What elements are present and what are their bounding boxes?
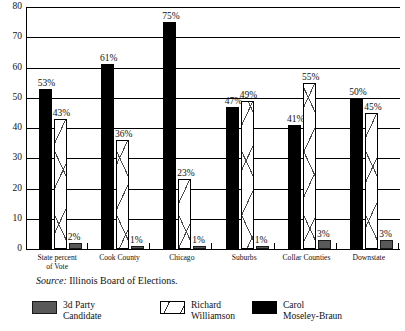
legend-swatch-richard (160, 301, 185, 314)
legend-swatch-third (32, 301, 57, 314)
x-tick-3 (274, 243, 275, 249)
legend-label-line: Williamson (191, 311, 235, 322)
bar-third-party-4 (318, 240, 331, 249)
bar-richard-5 (365, 113, 378, 249)
legend-label-carol: CarolMoseley-Braun (283, 300, 342, 321)
hatch-pattern (304, 84, 315, 248)
gridline-50 (26, 98, 400, 99)
hatch-pattern (366, 114, 377, 248)
bar-value-label-third-party-4: 3% (317, 229, 330, 239)
gridline-40 (26, 128, 400, 129)
legend-label-third: 3d PartyCandidate (63, 300, 102, 321)
bar-value-label-carol-1: 61% (100, 53, 117, 63)
bar-value-label-richard-5: 45% (364, 102, 381, 112)
hatch-pattern (242, 102, 253, 248)
bar-carol-1 (101, 64, 114, 249)
legend-label-richard: RichardWilliamson (191, 300, 235, 321)
x-tick-4 (336, 243, 337, 249)
legend-label-line: Carol (283, 300, 342, 311)
category-label-line: Downstate (330, 253, 405, 262)
hatch-pattern (179, 180, 190, 248)
plot-area: 53%43%2%61%36%1%75%23%1%47%49%1%41%55%3%… (26, 7, 400, 249)
bar-value-label-carol-2: 75% (162, 11, 179, 21)
y-tick-label-80: 80 (0, 2, 22, 12)
legend-label-line: Moseley-Braun (283, 311, 342, 322)
legend-label-line: Candidate (63, 311, 102, 322)
y-tick-label-10: 10 (0, 214, 22, 224)
y-tick-label-70: 70 (0, 32, 22, 42)
y-tick-label-60: 60 (0, 63, 22, 73)
category-label-line: of Vote (18, 262, 96, 271)
bar-carol-3 (226, 107, 239, 249)
gridline-80 (26, 7, 400, 8)
bar-value-label-richard-1: 36% (115, 129, 132, 139)
y-tick-label-20: 20 (0, 184, 22, 194)
bar-value-label-richard-0: 43% (53, 108, 70, 118)
bar-carol-5 (350, 98, 363, 249)
chart-legend: 3d PartyCandidateRichardWilliamsonCarolM… (0, 300, 405, 328)
bar-value-label-carol-5: 50% (349, 87, 366, 97)
bar-value-label-carol-0: 53% (38, 78, 55, 88)
bar-carol-2 (163, 22, 176, 249)
bar-third-party-0 (69, 243, 82, 249)
bar-value-label-third-party-3: 1% (255, 235, 268, 245)
bar-richard-2 (178, 179, 191, 249)
hatch-pattern (55, 120, 66, 248)
bar-richard-4 (303, 83, 316, 249)
category-label-5: Downstate (330, 253, 405, 262)
bar-richard-1 (116, 140, 129, 249)
legend-item-third: 3d PartyCandidate (32, 300, 102, 321)
bar-richard-0 (54, 119, 67, 249)
bar-value-label-richard-2: 23% (177, 168, 194, 178)
gridline-20 (26, 189, 400, 190)
hatch-pattern (161, 302, 184, 313)
bar-value-label-richard-3: 49% (240, 90, 257, 100)
bar-value-label-third-party-0: 2% (68, 232, 81, 242)
bar-third-party-1 (131, 246, 144, 249)
hatch-pattern (117, 141, 128, 248)
bar-richard-3 (241, 101, 254, 249)
y-tick-label-50: 50 (0, 93, 22, 103)
bar-value-label-third-party-5: 3% (379, 229, 392, 239)
bar-third-party-5 (380, 240, 393, 249)
bar-carol-4 (288, 125, 301, 249)
legend-swatch-carol (252, 301, 277, 314)
source-note: Source: Illinois Board of Elections. (36, 275, 178, 287)
bar-value-label-third-party-2: 1% (192, 235, 205, 245)
y-tick-label-30: 30 (0, 153, 22, 163)
gridline-60 (26, 68, 400, 69)
x-tick-5 (398, 243, 399, 249)
source-label: Source: (36, 275, 67, 286)
bar-value-label-carol-4: 41% (287, 114, 304, 124)
x-tick-0 (87, 243, 88, 249)
x-tick-2 (211, 243, 212, 249)
bar-value-label-richard-4: 55% (302, 72, 319, 82)
legend-item-carol: CarolMoseley-Braun (252, 300, 342, 321)
legend-label-line: Richard (191, 300, 235, 311)
source-text: Illinois Board of Elections. (69, 275, 177, 286)
legend-item-richard: RichardWilliamson (160, 300, 235, 321)
legend-label-line: 3d Party (63, 300, 102, 311)
bar-third-party-3 (256, 246, 269, 249)
x-tick-1 (149, 243, 150, 249)
gridline-70 (26, 37, 400, 38)
bar-carol-0 (39, 89, 52, 249)
bar-third-party-2 (193, 246, 206, 249)
bar-value-label-third-party-1: 1% (130, 235, 143, 245)
gridline-0 (26, 249, 400, 250)
gridline-30 (26, 158, 400, 159)
gridline-10 (26, 219, 400, 220)
bar-chart-figure: 01020304050607080 53%43%2%61%36%1%75%23%… (0, 0, 405, 331)
y-tick-label-40: 40 (0, 123, 22, 133)
